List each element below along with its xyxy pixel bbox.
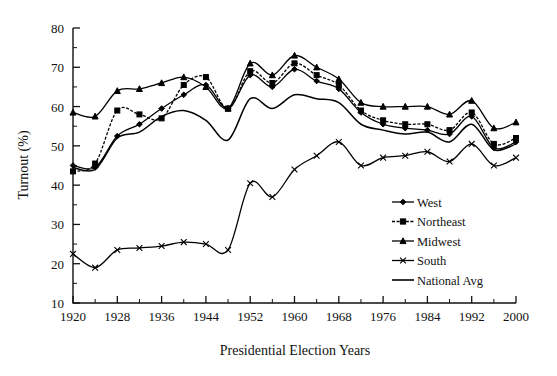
y-tick-label: 60: [51, 100, 64, 115]
x-tick-label: 1928: [104, 309, 130, 324]
data-point-square: [314, 73, 319, 78]
data-point-square: [137, 112, 142, 117]
data-point-square: [491, 141, 496, 146]
x-tick-label: 1936: [149, 309, 176, 324]
x-tick-label: 1920: [60, 309, 86, 324]
data-point-square: [115, 108, 120, 113]
y-tick-label: 70: [51, 60, 64, 75]
y-tick-label: 80: [51, 21, 64, 36]
x-tick-label: 2000: [503, 309, 529, 324]
turnout-line-chart: 1020304050607080192019281936194419521960…: [0, 0, 557, 376]
y-tick-label: 20: [51, 257, 64, 272]
y-tick-label: 40: [51, 178, 64, 193]
x-tick-label: 1992: [459, 309, 485, 324]
data-point-square: [381, 118, 386, 123]
y-axis-title: Turnout (%): [16, 130, 32, 199]
data-point-square: [292, 61, 297, 66]
data-point-square: [403, 122, 408, 127]
data-point-square: [270, 81, 275, 86]
data-point-square: [469, 110, 474, 115]
data-point-square: [514, 136, 519, 141]
chart-canvas: 1020304050607080192019281936194419521960…: [0, 0, 557, 376]
legend-label: National Avg: [417, 274, 484, 288]
data-point-square: [425, 122, 430, 127]
data-point-square: [400, 219, 405, 224]
data-point-square: [203, 75, 208, 80]
y-tick-label: 30: [51, 217, 64, 232]
legend-label: Northeast: [417, 215, 466, 229]
data-point-square: [358, 108, 363, 113]
data-point-square: [181, 82, 186, 87]
x-axis-title: Presidential Election Years: [220, 343, 370, 358]
data-point-square: [447, 128, 452, 133]
x-tick-label: 1960: [282, 309, 308, 324]
legend-label: West: [417, 196, 442, 210]
data-point-square: [248, 69, 253, 74]
x-tick-label: 1944: [193, 309, 220, 324]
data-point-square: [336, 82, 341, 87]
x-tick-label: 1968: [326, 309, 352, 324]
x-tick-label: 1976: [370, 309, 397, 324]
data-point-square: [93, 161, 98, 166]
legend-label: South: [417, 254, 447, 268]
x-tick-label: 1952: [237, 309, 263, 324]
data-point-square: [71, 169, 76, 174]
x-tick-label: 1984: [414, 309, 441, 324]
legend-label: Midwest: [417, 235, 461, 249]
y-tick-label: 50: [51, 139, 64, 154]
